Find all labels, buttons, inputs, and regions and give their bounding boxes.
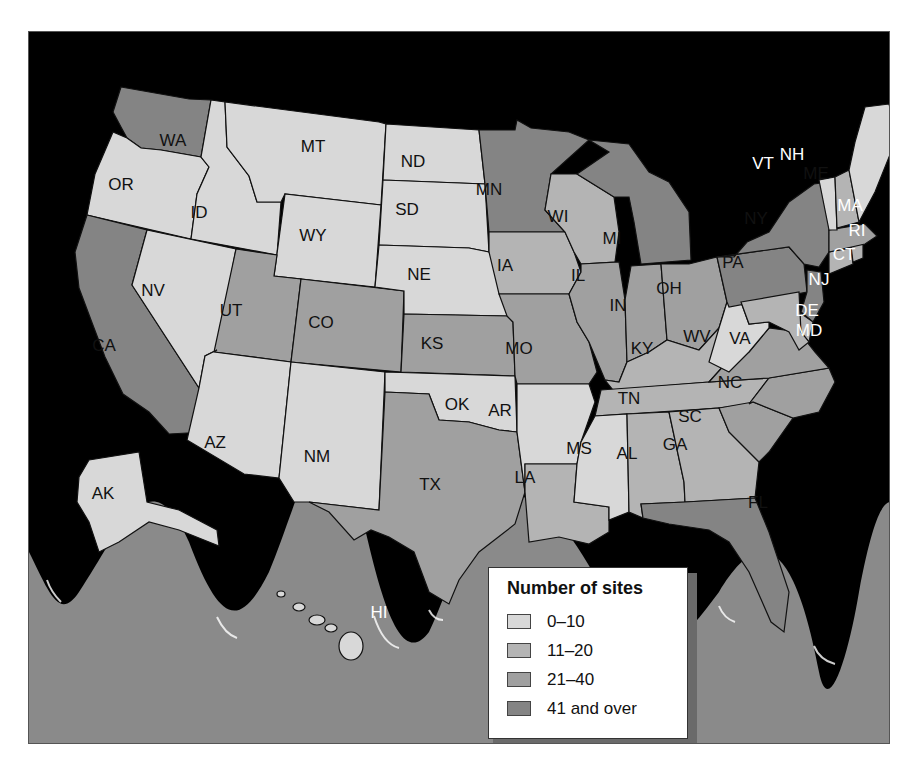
- legend-item: 41 and over: [507, 694, 687, 723]
- label-CA: CA: [92, 336, 116, 355]
- legend-swatch-0-10: [507, 614, 531, 629]
- label-FL: FL: [748, 493, 768, 512]
- label-WY: WY: [299, 226, 326, 245]
- label-CO: CO: [308, 313, 334, 332]
- label-SD: SD: [395, 200, 419, 219]
- legend-item: 21–40: [507, 665, 687, 694]
- label-MD: MD: [796, 321, 822, 340]
- label-MO: MO: [505, 339, 532, 358]
- legend-swatch-21-40: [507, 672, 531, 687]
- label-ND: ND: [401, 152, 426, 171]
- label-OK: OK: [445, 395, 470, 414]
- label-AL: AL: [617, 444, 638, 463]
- label-MA: MA: [837, 196, 863, 215]
- label-NV: NV: [141, 281, 165, 300]
- legend-swatch-11-20: [507, 643, 531, 658]
- legend-label: 21–40: [547, 670, 594, 690]
- state-KS[interactable]: [401, 314, 515, 376]
- label-WA: WA: [160, 131, 187, 150]
- legend-item: 0–10: [507, 607, 687, 636]
- legend-item: 11–20: [507, 636, 687, 665]
- label-UT: UT: [220, 301, 243, 320]
- label-SC: SC: [678, 407, 702, 426]
- label-TX: TX: [419, 475, 441, 494]
- legend-label: 41 and over: [547, 699, 637, 719]
- label-IA: IA: [497, 256, 514, 275]
- label-WV: WV: [683, 327, 711, 346]
- label-KS: KS: [421, 334, 444, 353]
- label-NJ: NJ: [809, 270, 830, 289]
- label-NE: NE: [407, 265, 431, 284]
- label-MN: MN: [476, 180, 502, 199]
- label-OH: OH: [656, 279, 682, 298]
- label-AK: AK: [92, 484, 115, 503]
- label-TN: TN: [618, 389, 641, 408]
- map-frame: WA OR CA ID NV MT WY UT CO AZ NM ND SD N…: [28, 31, 890, 744]
- label-AZ: AZ: [204, 433, 226, 452]
- label-CT: CT: [833, 245, 856, 264]
- label-ID: ID: [191, 203, 208, 222]
- state-WY[interactable]: [274, 194, 381, 287]
- label-MS: MS: [566, 439, 592, 458]
- legend-swatch-41-over: [507, 701, 531, 716]
- label-IL: IL: [571, 266, 585, 285]
- legend-title: Number of sites: [507, 578, 687, 599]
- label-DE: DE: [795, 301, 819, 320]
- label-WI: WI: [548, 207, 569, 226]
- label-NC: NC: [718, 373, 743, 392]
- label-RI: RI: [849, 221, 866, 240]
- label-AR: AR: [488, 401, 512, 420]
- legend-label: 0–10: [547, 612, 585, 632]
- label-NM: NM: [304, 447, 330, 466]
- state-AZ[interactable]: [187, 350, 291, 478]
- label-NH: NH: [780, 145, 805, 164]
- label-IN: IN: [610, 296, 627, 315]
- label-HI: HI: [371, 603, 388, 622]
- label-PA: PA: [722, 253, 744, 272]
- label-NY: NY: [744, 209, 768, 228]
- label-GA: GA: [663, 435, 688, 454]
- us-choropleth-map: WA OR CA ID NV MT WY UT CO AZ NM ND SD N…: [29, 32, 890, 744]
- label-VT: VT: [752, 154, 774, 173]
- label-MT: MT: [301, 137, 326, 156]
- label-LA: LA: [515, 468, 536, 487]
- state-ND[interactable]: [383, 124, 485, 184]
- label-ME: ME: [803, 164, 829, 183]
- label-VA: VA: [729, 329, 751, 348]
- label-KY: KY: [631, 339, 654, 358]
- label-OR: OR: [108, 175, 134, 194]
- legend-label: 11–20: [547, 641, 593, 661]
- legend: Number of sites 0–10 11–20 21–40 41 and …: [488, 567, 688, 739]
- state-NM[interactable]: [279, 362, 385, 510]
- label-MI: MI: [603, 229, 622, 248]
